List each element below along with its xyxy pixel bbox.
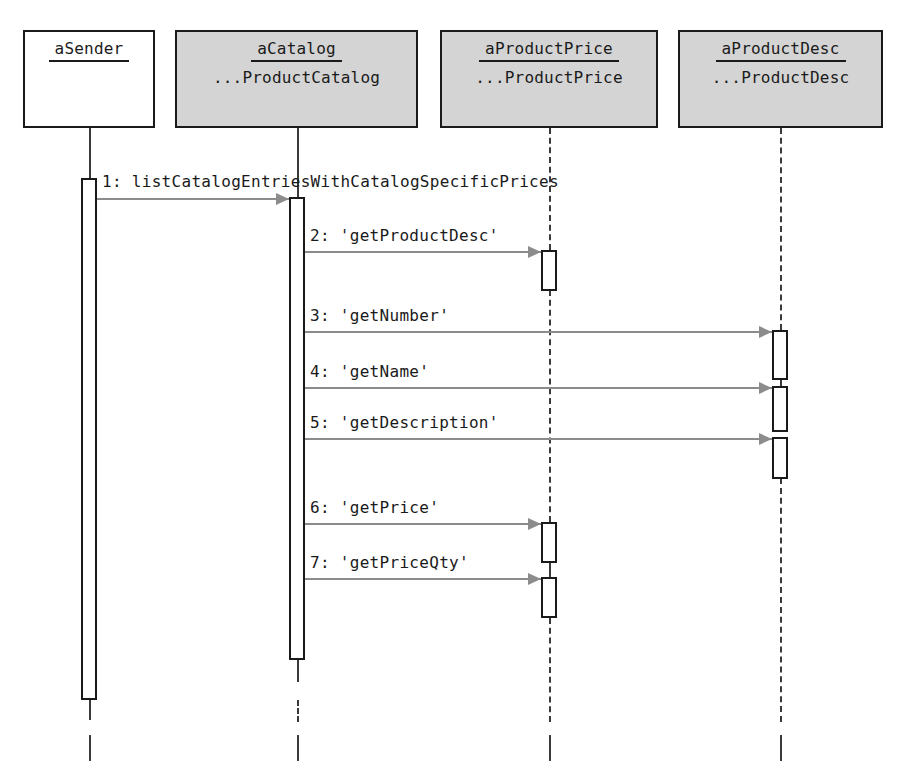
participant-box-aproductdesc[interactable]: aProductDesc...ProductDesc (678, 30, 883, 128)
lifeline-aproductprice (549, 563, 551, 577)
message-arrow-3[interactable] (305, 331, 772, 333)
activation-bar-aproductprice[interactable] (541, 577, 557, 618)
lifeline-asender (89, 128, 91, 180)
lifeline-aproductprice (549, 618, 551, 722)
message-label-7: 7: 'getPriceQty' (310, 553, 469, 572)
activation-bar-aproductdesc[interactable] (772, 330, 788, 380)
participant-name: aProductDesc (716, 39, 846, 62)
arrowhead-icon (759, 433, 772, 445)
arrowhead-icon (759, 326, 772, 338)
participant-box-asender[interactable]: aSender (23, 30, 155, 128)
lifeline-aproductdesc (780, 478, 782, 722)
lifeline-aproductdesc (780, 735, 782, 761)
lifeline-aproductdesc (780, 128, 782, 330)
lifeline-aproductprice (549, 735, 551, 761)
activation-bar-aproductprice[interactable] (541, 250, 557, 291)
lifeline-acatalog (297, 700, 299, 722)
message-label-3: 3: 'getNumber' (310, 306, 449, 325)
arrowhead-icon (276, 193, 289, 205)
sequence-diagram-canvas: aSenderaCatalog...ProductCatalogaProduct… (0, 0, 915, 772)
message-label-2: 2: 'getProductDesc' (310, 226, 499, 245)
message-label-4: 4: 'getName' (310, 362, 429, 381)
arrowhead-icon (759, 382, 772, 394)
message-arrow-7[interactable] (305, 578, 541, 580)
participant-name: aCatalog (251, 39, 342, 62)
message-arrow-6[interactable] (305, 523, 541, 525)
lifeline-asender (89, 698, 91, 720)
lifeline-aproductprice (549, 290, 551, 522)
activation-bar-acatalog[interactable] (289, 197, 305, 660)
participant-name: aProductPrice (479, 39, 619, 62)
message-arrow-1[interactable] (97, 198, 289, 200)
participant-class: ...ProductCatalog (177, 68, 416, 87)
lifeline-acatalog (297, 735, 299, 761)
arrowhead-icon (528, 573, 541, 585)
message-label-6: 6: 'getPrice' (310, 498, 439, 517)
activation-bar-asender[interactable] (81, 178, 97, 700)
participant-box-acatalog[interactable]: aCatalog...ProductCatalog (175, 30, 418, 128)
message-arrow-2[interactable] (305, 251, 541, 253)
lifeline-asender (89, 735, 91, 761)
activation-bar-aproductdesc[interactable] (772, 437, 788, 479)
lifeline-acatalog (297, 660, 299, 682)
activation-bar-aproductprice[interactable] (541, 522, 557, 563)
arrowhead-icon (528, 518, 541, 530)
message-arrow-4[interactable] (305, 387, 772, 389)
participant-class: ...ProductPrice (442, 68, 656, 87)
activation-bar-aproductdesc[interactable] (772, 386, 788, 432)
message-label-5: 5: 'getDescription' (310, 413, 499, 432)
message-arrow-5[interactable] (305, 438, 772, 440)
arrowhead-icon (528, 246, 541, 258)
message-label-1: 1: listCatalogEntriesWithCatalogSpecific… (102, 172, 559, 191)
participant-class: ...ProductDesc (680, 68, 881, 87)
participant-name: aSender (49, 39, 130, 62)
participant-box-aproductprice[interactable]: aProductPrice...ProductPrice (440, 30, 658, 128)
